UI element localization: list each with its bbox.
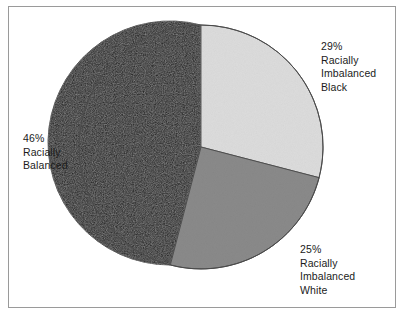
pie-label-text-line-2: Balanced [23, 159, 68, 173]
pie-label-text-line-3: Black [321, 81, 376, 95]
pie-label-text-line-2: Imbalanced [300, 270, 355, 284]
pie-label-text-line-3: White [300, 284, 355, 298]
pie-slice-racially-balanced[interactable] [48, 21, 201, 265]
pie-label-percent: 29% [321, 40, 376, 54]
pie-chart-figure: 29% Racially Imbalanced Black 25% Racial… [0, 0, 409, 319]
pie-label-percent: 46% [23, 132, 68, 146]
pie-label-text-line-1: Racially [321, 54, 376, 68]
pie-label-percent: 25% [300, 243, 355, 257]
pie-label-racially-imbalanced-white: 25% Racially Imbalanced White [300, 243, 355, 297]
pie-label-text-line-1: Racially [300, 257, 355, 271]
pie-label-racially-balanced: 46% Racially Balanced [23, 132, 68, 173]
pie-label-text-line-2: Imbalanced [321, 67, 376, 81]
pie-label-racially-imbalanced-black: 29% Racially Imbalanced Black [321, 40, 376, 94]
pie-label-text-line-1: Racially [23, 146, 68, 160]
